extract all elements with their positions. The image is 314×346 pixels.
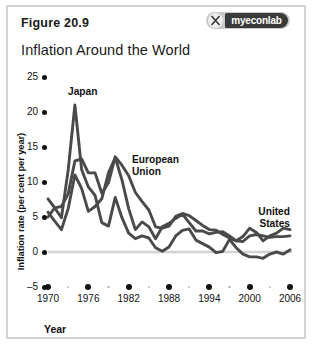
y-axis-tick-dot	[42, 75, 47, 80]
series-annotation-european-union: EuropeanUnion	[132, 154, 179, 177]
myeconlab-wordmark: myeconlab	[225, 13, 288, 28]
x-axis-tick-label: 1994	[192, 293, 226, 304]
x-axis-tick-dot	[126, 284, 132, 290]
x-axis-tick-label: 1976	[71, 293, 105, 304]
series-annotation-united-states: UnitedStates	[210, 206, 290, 229]
y-axis-tick-label: 5	[12, 211, 38, 222]
x-axis-tick-label: 1988	[152, 293, 186, 304]
figure-number: Figure 20.9	[21, 16, 89, 30]
y-axis-tick-label: 10	[12, 176, 38, 187]
figure-card: Figure 20.9 Inflation Around the World m…	[0, 0, 314, 346]
y-axis-tick-dot	[42, 250, 47, 255]
y-axis-tick-dot	[42, 110, 47, 115]
x-mark-icon	[208, 13, 223, 28]
y-axis-tick-dot	[42, 180, 47, 185]
x-axis-tick-dot	[287, 284, 293, 290]
y-axis-tick-label: 0	[12, 246, 38, 257]
x-axis-title: Year	[44, 323, 66, 335]
x-axis-tick-label: 1982	[112, 293, 146, 304]
y-axis-tick-dot	[42, 145, 47, 150]
x-axis-tick-dot	[166, 284, 172, 290]
x-axis-minor-tick-dot	[107, 286, 110, 289]
x-axis-tick-label: 1970	[31, 293, 65, 304]
myeconlab-logo: myeconlab	[206, 12, 290, 29]
figure-title: Inflation Around the World	[21, 42, 190, 58]
y-axis-tick-label: 25	[12, 71, 38, 82]
y-axis-tick-dot	[42, 215, 47, 220]
series-annotation-japan: Japan	[68, 86, 97, 98]
x-axis-tick-label: 2000	[233, 293, 267, 304]
x-axis-minor-tick-dot	[228, 286, 231, 289]
y-axis-tick-label: –5	[12, 281, 38, 292]
y-axis-tick-label: 15	[12, 141, 38, 152]
x-axis-tick-dot	[45, 284, 51, 290]
x-axis-tick-label: 2006	[273, 293, 307, 304]
x-axis-tick-dot	[247, 284, 253, 290]
y-axis-tick-label: 20	[12, 106, 38, 117]
